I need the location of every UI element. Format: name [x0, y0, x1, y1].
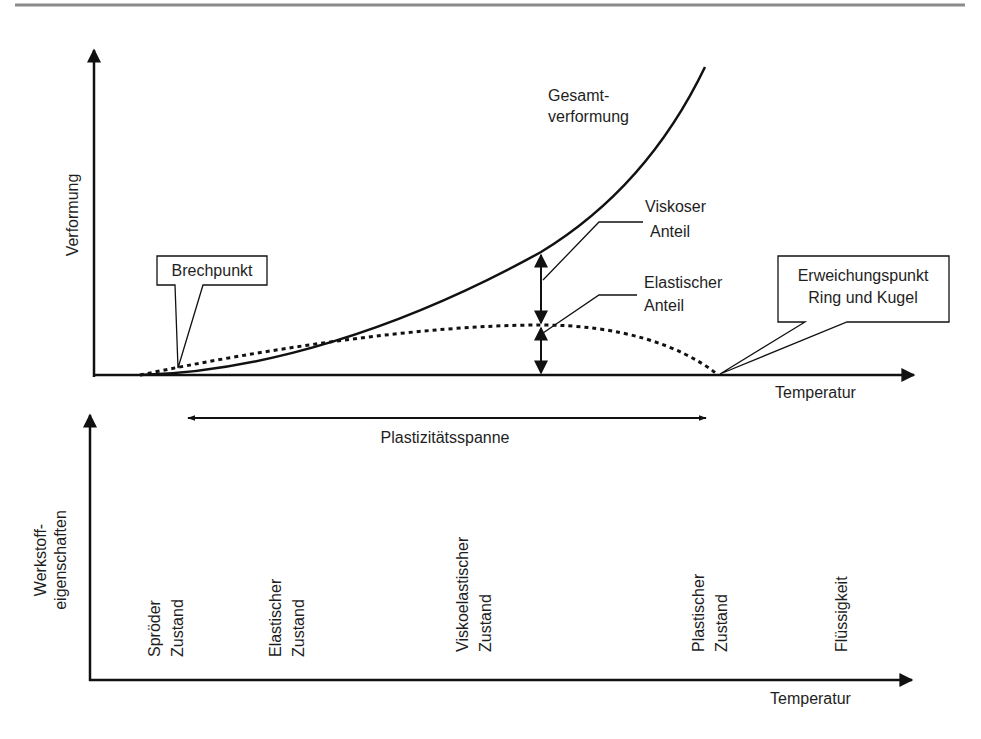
- state-liquid: Flüssigkeit: [833, 576, 850, 652]
- state-viscoelastic: Viskoelastischer: [454, 536, 471, 652]
- upper-x-axis-label: Temperatur: [775, 384, 857, 401]
- total-deformation-label-2: verformung: [548, 108, 629, 125]
- plasticity-span: Plastizitätsspanne: [188, 418, 706, 446]
- softening-point-label: Erweichungspunkt: [798, 267, 929, 284]
- lower-x-axis-label: Temperatur: [770, 690, 852, 707]
- plasticity-span-label: Plastizitätsspanne: [381, 429, 510, 446]
- state-brittle: Spröder: [146, 599, 163, 657]
- elastic-callout-label: Elastischer: [644, 274, 723, 291]
- total-deformation-label: Gesamt-: [548, 87, 609, 104]
- lower-chart: Werkstoff- eigenschaften Temperatur Sprö…: [32, 415, 912, 707]
- upper-chart: Verformung Temperatur Gesamt- verformung…: [64, 50, 949, 401]
- state-plastic: Plastischer: [690, 573, 707, 652]
- figure: Verformung Temperatur Gesamt- verformung…: [0, 0, 981, 739]
- state-plastic-2: Zustand: [713, 594, 730, 652]
- viscous-callout-label-2: Anteil: [650, 223, 690, 240]
- upper-y-axis-label: Verformung: [64, 174, 81, 257]
- elastic-callout-label-2: Anteil: [644, 297, 684, 314]
- lower-y-axis-label-2: eigenschaften: [52, 510, 69, 610]
- state-elastic-2: Zustand: [290, 599, 307, 657]
- viscous-callout-label: Viskoser: [645, 198, 707, 215]
- brechpunkt-label: Brechpunkt: [172, 262, 253, 279]
- state-brittle-2: Zustand: [169, 599, 186, 657]
- state-viscoelastic-2: Zustand: [477, 594, 494, 652]
- elastic-callout-line: [543, 295, 637, 333]
- softening-point-label-2: Ring und Kugel: [808, 289, 917, 306]
- viscous-callout-line: [543, 222, 643, 280]
- state-elastic: Elastischer: [267, 578, 284, 657]
- lower-y-axis-label: Werkstoff-: [32, 524, 49, 596]
